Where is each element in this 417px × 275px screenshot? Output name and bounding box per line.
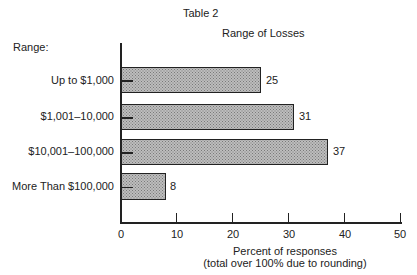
chart-title: Range of Losses bbox=[222, 27, 305, 39]
bar-up-to-1000 bbox=[121, 67, 261, 93]
x-axis-title: Percent of responses bbox=[200, 245, 370, 257]
bar-tick-mark bbox=[122, 152, 133, 154]
x-tick-label: 40 bbox=[339, 228, 351, 240]
bar-10001-100000 bbox=[121, 139, 328, 165]
x-tick-label: 30 bbox=[283, 228, 295, 240]
x-tick-label: 0 bbox=[118, 228, 124, 240]
x-tick bbox=[288, 213, 289, 223]
value-label: 8 bbox=[170, 180, 176, 192]
x-tick bbox=[176, 213, 177, 223]
x-tick bbox=[232, 213, 233, 223]
category-label: $1,001–10,000 bbox=[41, 110, 114, 122]
x-tick-label: 20 bbox=[227, 228, 239, 240]
x-axis-note: (total over 100% due to rounding) bbox=[200, 257, 370, 269]
bar-tick-mark bbox=[122, 187, 133, 189]
value-label: 37 bbox=[333, 145, 345, 157]
value-label: 25 bbox=[266, 74, 278, 86]
x-tick bbox=[344, 213, 345, 223]
category-label: Up to $1,000 bbox=[51, 74, 114, 86]
category-label: $10,001–100,000 bbox=[28, 145, 114, 157]
x-tick-label: 10 bbox=[171, 228, 183, 240]
x-tick-label: 50 bbox=[394, 228, 406, 240]
bar-tick-mark bbox=[122, 80, 133, 82]
y-axis-title: Range: bbox=[13, 41, 48, 53]
chart-supertitle: Table 2 bbox=[183, 7, 218, 19]
value-label: 31 bbox=[299, 110, 311, 122]
bar-tick-mark bbox=[122, 117, 133, 119]
category-label: More Than $100,000 bbox=[12, 180, 114, 192]
x-tick bbox=[400, 213, 401, 223]
x-axis-line bbox=[120, 222, 402, 224]
bar-more-than-100000 bbox=[121, 173, 166, 200]
bar-1001-10000 bbox=[121, 104, 294, 130]
